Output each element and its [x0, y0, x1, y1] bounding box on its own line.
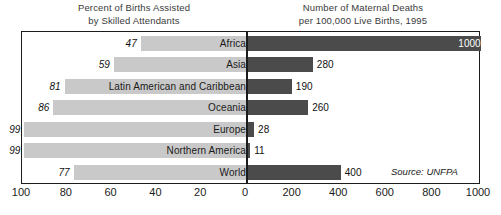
tick-label-percent: 40 — [149, 186, 161, 198]
tick-label-deaths: 1000 — [466, 186, 490, 198]
tick-label-percent: 0 — [242, 186, 248, 198]
value-label-deaths: 280 — [313, 57, 334, 72]
left-panel-title: Percent of Births Assisted by Skilled At… — [22, 2, 246, 27]
chart-headers: Percent of Births Assisted by Skilled At… — [0, 0, 501, 31]
bar-maternal-deaths — [248, 79, 292, 94]
chart-rows: 47Africa100059Asia28081Latin American an… — [22, 32, 479, 183]
value-label-deaths: 1000 — [248, 36, 486, 51]
chart-plot-frame: 47Africa100059Asia28081Latin American an… — [21, 31, 480, 184]
value-label-percent: 99 — [0, 143, 24, 158]
value-label-percent: 59 — [70, 57, 114, 72]
tick-label-deaths: 200 — [282, 186, 300, 198]
tick-label-percent: 100 — [12, 186, 30, 198]
bar-maternal-deaths — [248, 100, 309, 115]
tick-label-percent: 80 — [60, 186, 72, 198]
chart-row: 99Northern America11 — [22, 140, 479, 162]
right-panel-title-line-1: Number of Maternal Deaths — [246, 2, 480, 15]
value-label-deaths: 260 — [308, 100, 329, 115]
value-label-percent: 47 — [97, 36, 141, 51]
value-label-deaths: 28 — [254, 122, 269, 137]
category-label: Europe — [24, 122, 251, 137]
axis-tick-labels: 1008060402002004006008001000 — [0, 186, 501, 215]
category-label: Africa — [141, 36, 251, 51]
center-axis-line — [246, 31, 248, 184]
chart-row: 81Latin American and Caribbean190 — [22, 76, 479, 98]
bar-maternal-deaths — [248, 165, 341, 180]
value-label-percent: 81 — [21, 79, 65, 94]
value-label-deaths: 400 — [341, 165, 362, 180]
chart-row: 86Oceania260 — [22, 97, 479, 119]
category-label: Asia — [114, 57, 251, 72]
value-label-deaths: 190 — [292, 79, 313, 94]
left-panel-title-line-1: Percent of Births Assisted — [22, 2, 246, 15]
chart-row: 47Africa1000 — [22, 33, 479, 55]
chart-row: 99Europe28 — [22, 119, 479, 141]
category-label: Latin American and Caribbean — [65, 79, 251, 94]
value-label-percent: 77 — [30, 165, 74, 180]
tick-label-deaths: 800 — [422, 186, 440, 198]
category-label: Northern America — [24, 143, 251, 158]
left-panel-title-line-2: by Skilled Attendants — [22, 15, 246, 28]
tick-label-percent: 60 — [104, 186, 116, 198]
bar-maternal-deaths — [248, 57, 313, 72]
tick-label-deaths: 600 — [376, 186, 394, 198]
source-annotation: Source: UNFPA — [391, 166, 458, 177]
tick-label-percent: 20 — [194, 186, 206, 198]
right-panel-title: Number of Maternal Deaths per 100,000 Li… — [246, 2, 480, 27]
value-label-percent: 99 — [0, 122, 24, 137]
chart-row: 59Asia280 — [22, 54, 479, 76]
category-label: Oceania — [53, 100, 251, 115]
value-label-percent: 86 — [9, 100, 53, 115]
value-label-deaths: 11 — [250, 143, 264, 158]
right-panel-title-line-2: per 100,000 Live Births, 1995 — [246, 15, 480, 28]
tick-label-deaths: 400 — [329, 186, 347, 198]
category-label: World — [74, 165, 251, 180]
